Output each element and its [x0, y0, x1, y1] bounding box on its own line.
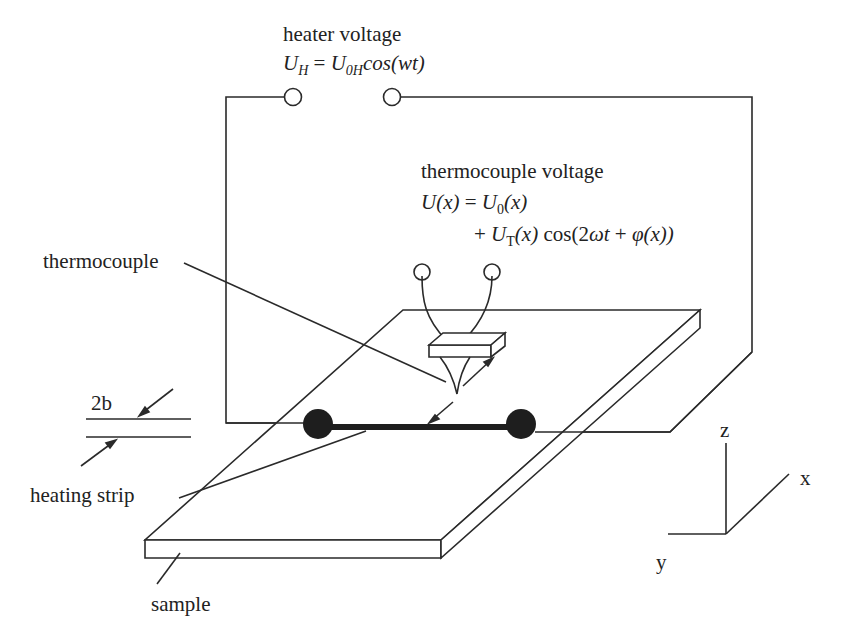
- axis-x-line: [726, 474, 789, 534]
- heater-voltage-equation: UH = U0Hcos(wt): [283, 53, 425, 78]
- coordinate-axes: [668, 443, 789, 534]
- axis-z-label: z: [720, 420, 729, 441]
- tc-eq-omega: ωt: [589, 222, 610, 246]
- eq-u0h-sub: 0H: [346, 63, 363, 78]
- tc-eq-phi: φ: [632, 222, 644, 246]
- tc-eq-ut-sub: T: [506, 234, 515, 249]
- heater-terminal-right: [384, 89, 401, 106]
- eq-cos: cos(wt): [363, 51, 425, 75]
- heater-terminal-left: [285, 89, 302, 106]
- width-2b-label: 2b: [91, 393, 112, 414]
- axis-x-label: x: [800, 468, 811, 489]
- tc-eq-x: (x): [436, 190, 459, 214]
- tc-eq-ut: U: [491, 222, 506, 246]
- tc-eq-u: U: [421, 190, 436, 214]
- tc-eq-equals: =: [459, 190, 481, 214]
- eq-uh: U: [283, 51, 298, 75]
- heating-strip-label: heating strip: [30, 485, 134, 506]
- tc-eq-u0: U: [482, 190, 497, 214]
- sample-label: sample: [151, 594, 210, 615]
- tc-eq-u0-sub: 0: [497, 202, 504, 217]
- tc-eq-plus: +: [474, 222, 491, 246]
- thermocouple-voltage-label: thermocouple voltage: [421, 161, 604, 182]
- heater-voltage-label: heater voltage: [283, 24, 401, 45]
- tc-eq-x2: (x): [504, 190, 527, 214]
- thermocouple-label: thermocouple: [43, 251, 158, 272]
- strip-contact-right: [506, 409, 536, 439]
- tc-eq-x3: (x): [515, 222, 538, 246]
- eq-uh-sub: H: [298, 63, 308, 78]
- strip-contact-left: [303, 409, 333, 439]
- tc-eq-cos: cos(2: [538, 222, 589, 246]
- eq-equals: =: [308, 51, 330, 75]
- tc-equation-line1: U(x) = U0(x): [421, 192, 527, 217]
- tc-eq-plus2: +: [610, 222, 632, 246]
- sample-slab: [145, 310, 700, 558]
- setup-diagram: [0, 0, 852, 641]
- tc-equation-line2: + UT(x) cos(2ωt + φ(x)): [474, 224, 674, 249]
- axis-y-label: y: [656, 552, 667, 573]
- eq-u0h: U: [331, 51, 346, 75]
- tc-eq-x4: (x)): [644, 222, 674, 246]
